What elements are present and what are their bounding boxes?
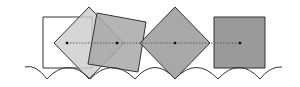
center-dot [174,42,176,44]
center-dot [239,42,241,44]
center-dot [66,42,68,44]
scalloped-road [25,67,282,80]
center-dot [116,42,118,44]
rolling-square-diagram [0,0,300,87]
